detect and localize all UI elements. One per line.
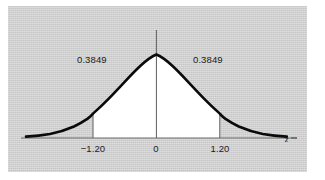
area-label-right: 0.3849 [193,54,223,65]
x-axis-variable-label: z [285,134,288,144]
area-label-left: 0.3849 [77,54,107,65]
figure-panel: 0.3849 0.3849 −1.20 0 1.20 z [8,6,307,172]
figure-container: 0.3849 0.3849 −1.20 0 1.20 z [0,0,325,180]
x-tick-label-positive-1-20: 1.20 [198,143,242,154]
x-tick-label-zero: 0 [134,143,178,154]
x-tick-label-negative-1-20: −1.20 [71,143,115,154]
